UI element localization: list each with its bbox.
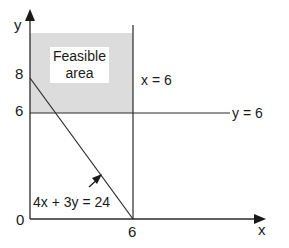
label-y-equals-6: y = 6	[232, 105, 263, 121]
feasible-area-label: Feasible area	[50, 47, 109, 83]
y-axis-arrowhead-icon	[25, 9, 35, 21]
y-tick-8: 8	[15, 66, 23, 82]
feasible-area-label-line1: Feasible	[53, 48, 106, 65]
label-x-equals-6: x = 6	[141, 72, 172, 88]
y-axis-label: y	[14, 17, 22, 33]
x-tick-6: 6	[128, 224, 136, 240]
origin-label: 0	[16, 212, 24, 228]
label-4x-3y-24: 4x + 3y = 24	[33, 194, 110, 210]
y-tick-6: 6	[15, 103, 23, 119]
graph-canvas	[0, 0, 289, 248]
feasible-area-label-line2: area	[53, 65, 106, 82]
x-axis-label: x	[258, 222, 266, 238]
